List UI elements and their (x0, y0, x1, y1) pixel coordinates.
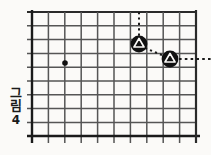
connector-dotted-line (145, 48, 164, 56)
triangle-in-circle-marker-a (131, 36, 148, 53)
figure-screenshot: 그 림 4 (0, 0, 211, 155)
plot-area (0, 0, 211, 155)
grid-plot-svg (0, 0, 211, 155)
dot-marker (62, 60, 68, 66)
grid-vertical-lines (48, 12, 179, 143)
triangle-in-circle-marker-b (162, 51, 179, 68)
